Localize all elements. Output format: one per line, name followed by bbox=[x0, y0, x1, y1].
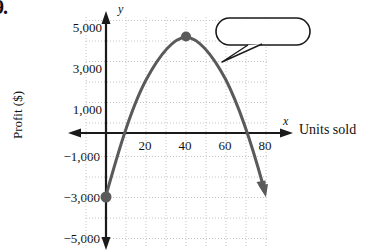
graph-canvas bbox=[0, 0, 367, 251]
y-axis bbox=[102, 11, 111, 250]
graph-figure: 9. Profit ($) Units sold x y 5,000 3,000… bbox=[0, 0, 367, 251]
profit-curve bbox=[106, 37, 268, 197]
vertex-point bbox=[181, 32, 191, 42]
y-intercept-point bbox=[101, 192, 112, 203]
curve-label-callout bbox=[216, 18, 310, 62]
x-axis bbox=[68, 129, 293, 138]
